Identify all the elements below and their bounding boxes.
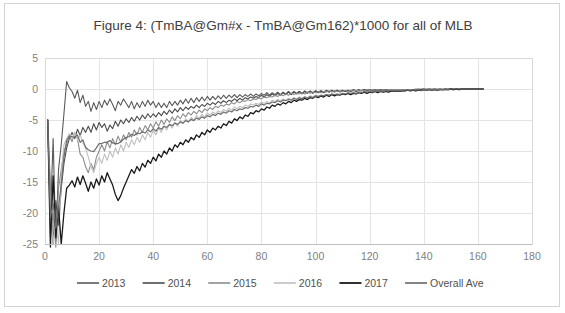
y-tick-label: -20: [23, 207, 38, 219]
x-tick-label: 140: [415, 250, 433, 262]
x-tick-label: 60: [201, 250, 213, 262]
y-tick-label: -25: [23, 238, 38, 250]
legend-label-2017[interactable]: 2017: [364, 277, 388, 289]
y-tick-label: -5: [29, 114, 38, 126]
y-tick-label: 0: [32, 83, 38, 95]
x-tick-label: 120: [361, 250, 379, 262]
chart-container: Figure 4: (TmBA@Gm#x - TmBA@Gm162)*1000 …: [4, 3, 560, 307]
x-tick-label: 20: [93, 250, 105, 262]
y-tick-label: -10: [23, 145, 38, 157]
chart-plot: 50-5-10-15-20-25 02040608010012014016018…: [5, 4, 561, 308]
x-tick-label: 0: [42, 250, 48, 262]
x-tick-label: 80: [256, 250, 268, 262]
series-line-2014: [48, 89, 484, 244]
gridlines: [45, 58, 533, 245]
chart-legend: 20132014201520162017Overall Ave: [77, 277, 484, 289]
x-tick-label: 160: [469, 250, 487, 262]
legend-label-2013[interactable]: 2013: [102, 277, 126, 289]
x-tick-label: 100: [307, 250, 325, 262]
series-line-overall-ave: [48, 89, 484, 229]
x-tick-label: 180: [523, 250, 541, 262]
series-lines: [48, 82, 484, 248]
y-axis-tick-labels: 50-5-10-15-20-25: [23, 52, 38, 250]
x-axis-tick-labels: 020406080100120140160180: [42, 250, 541, 262]
legend-label-overall-ave[interactable]: Overall Ave: [430, 277, 484, 289]
y-tick-label: 5: [32, 52, 38, 64]
series-line-2013: [48, 82, 484, 241]
legend-label-2015[interactable]: 2015: [233, 277, 257, 289]
series-line-2015: [48, 89, 484, 247]
series-line-2016: [48, 89, 484, 244]
legend-label-2016[interactable]: 2016: [299, 277, 323, 289]
legend-label-2014[interactable]: 2014: [168, 277, 192, 289]
series-line-2017: [48, 89, 484, 247]
x-tick-label: 40: [147, 250, 159, 262]
y-tick-label: -15: [23, 176, 38, 188]
